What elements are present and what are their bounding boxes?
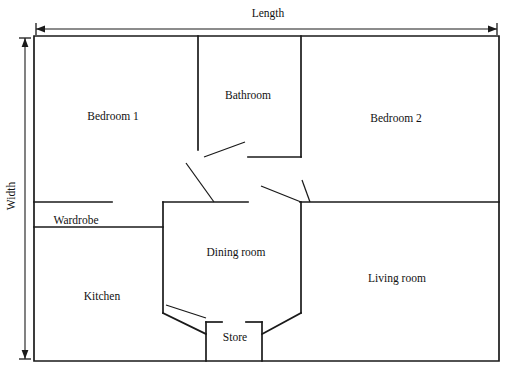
room-label-kitchen: Kitchen	[84, 290, 121, 302]
length-arrow-left-icon	[36, 26, 45, 33]
floor-plan-canvas: Length Width	[0, 0, 509, 379]
bathroom-door-leaf	[204, 142, 245, 157]
dining-door-leaf	[261, 186, 301, 202]
dining-room-walls	[163, 202, 301, 334]
width-arrow-bottom-icon	[22, 350, 29, 359]
length-label: Length	[252, 7, 285, 20]
outer-wall	[34, 36, 499, 361]
bedroom2-door-leaf	[302, 180, 310, 202]
room-label-bedroom-1: Bedroom 1	[87, 110, 139, 122]
room-label-bedroom-2: Bedroom 2	[370, 112, 422, 124]
room-label-bathroom: Bathroom	[225, 89, 271, 101]
length-dimension: Length	[36, 7, 497, 35]
kitchen-door-leaf	[166, 305, 206, 318]
dining-bottom-right-splay-wall	[262, 313, 301, 334]
door-leaves	[166, 142, 310, 318]
width-label: Width	[5, 182, 17, 211]
width-dimension: Width	[5, 38, 31, 359]
floor-plan-diagram: Length Width	[0, 0, 509, 379]
room-label-living-room: Living room	[368, 272, 426, 285]
room-label-store: Store	[223, 331, 247, 343]
bedroom1-door-leaf	[186, 163, 214, 202]
length-arrow-right-icon	[488, 26, 497, 33]
room-label-dining-room: Dining room	[206, 246, 265, 259]
width-arrow-top-icon	[22, 38, 29, 47]
room-label-wardrobe: Wardrobe	[53, 214, 98, 226]
